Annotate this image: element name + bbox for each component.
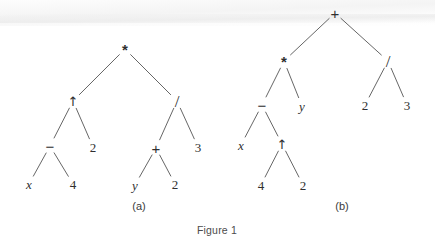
tree-node-a-2: 2 — [90, 141, 97, 154]
tree-node-a-times: * — [122, 42, 128, 57]
tree-edge — [341, 18, 381, 55]
tree-node-b-times: * — [281, 54, 287, 69]
figure-canvas: *↑/−2+3x4y2+*/−y23x↑42 (a) (b) Figure 1 — [0, 0, 435, 248]
tree-node-b-4: 4 — [258, 179, 265, 192]
tree-node-b-x: x — [238, 139, 244, 152]
subfigure-label-a: (a) — [132, 200, 145, 212]
tree-edge — [139, 155, 152, 177]
tree-edge — [287, 68, 299, 97]
tree-node-b-divide: / — [386, 53, 391, 70]
tree-edge — [160, 155, 171, 176]
tree-edge — [265, 151, 278, 177]
tree-edge — [245, 112, 258, 137]
tree-edge — [79, 55, 119, 95]
tree-node-b-y: y — [299, 100, 305, 113]
tree-node-a-3: 3 — [195, 141, 202, 154]
tree-edge — [391, 68, 403, 96]
tree-edge — [160, 108, 174, 139]
tree-node-a-2: 2 — [172, 178, 179, 191]
tree-edge — [54, 108, 69, 138]
tree-node-b-2: 2 — [300, 179, 307, 192]
tree-edge — [369, 68, 384, 97]
tree-node-a-y: y — [132, 179, 138, 192]
tree-edge — [33, 153, 46, 176]
tree-edge — [266, 68, 280, 97]
tree-edge — [180, 108, 194, 139]
figure-caption: Figure 1 — [197, 224, 237, 236]
tree-edge — [54, 153, 68, 176]
tree-node-a-plus: + — [152, 141, 161, 156]
tree-node-b-plus: + — [331, 6, 340, 21]
tree-edge — [131, 55, 171, 95]
tree-node-a-4: 4 — [70, 178, 77, 191]
tree-node-a-x: x — [26, 178, 32, 191]
subfigure-label-b: (b) — [335, 200, 348, 212]
tree-edge-layer — [0, 0, 435, 248]
tree-edge — [286, 151, 299, 177]
tree-edge — [76, 108, 89, 138]
tree-edge — [291, 18, 330, 54]
tree-edge — [266, 112, 278, 136]
tree-node-b-minus: − — [258, 98, 267, 113]
tree-node-a-exponent: ↑ — [68, 95, 79, 108]
tree-node-a-divide: / — [175, 93, 180, 110]
tree-node-b-2: 2 — [362, 99, 369, 112]
tree-node-a-minus: − — [46, 139, 55, 154]
tree-node-b-3: 3 — [404, 99, 411, 112]
tree-node-b-exponent: ↑ — [277, 138, 288, 151]
